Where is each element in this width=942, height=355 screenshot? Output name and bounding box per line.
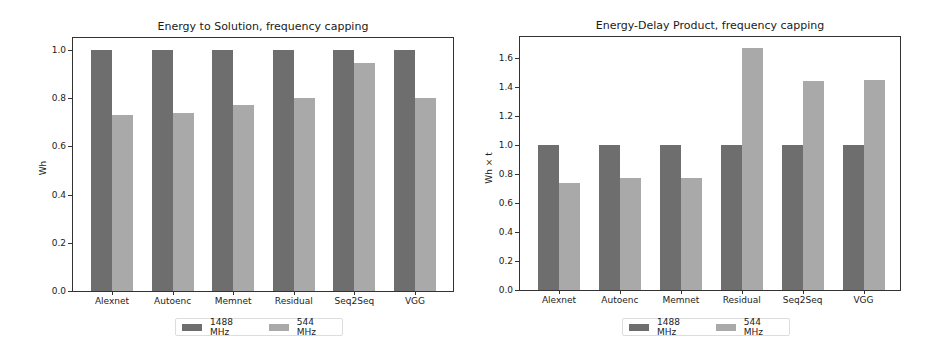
y-tick-mark — [515, 116, 519, 117]
y-tick-label: 1.2 — [483, 111, 513, 121]
x-tick-mark — [559, 290, 560, 294]
y-tick-mark — [515, 174, 519, 175]
legend: 1488 MHz 544 MHz — [622, 318, 790, 336]
energy-delay-product-chart: Energy-Delay Product, frequency capping … — [0, 0, 942, 355]
x-tick-label: Seq2Seq — [783, 295, 823, 305]
y-tick-mark — [515, 232, 519, 233]
legend-label: 544 MHz — [744, 317, 783, 337]
legend-swatch-544 — [716, 324, 736, 331]
bar-residual-544mhz — [742, 48, 763, 290]
x-tick-mark — [681, 290, 682, 294]
y-tick-mark — [515, 290, 519, 291]
legend-label: 1488 MHz — [657, 317, 702, 337]
y-tick-mark — [515, 87, 519, 88]
bar-memnet-1488mhz — [660, 145, 681, 290]
legend-item-544: 544 MHz — [716, 317, 783, 337]
x-tick-label: Memnet — [662, 295, 699, 305]
y-tick-label: 1.0 — [483, 140, 513, 150]
x-tick-label: Alexnet — [542, 295, 576, 305]
bar-seq2seq-1488mhz — [782, 145, 803, 290]
bar-alexnet-544mhz — [559, 183, 580, 290]
y-tick-mark — [515, 203, 519, 204]
bar-autoenc-544mhz — [620, 178, 641, 290]
x-tick-mark — [620, 290, 621, 294]
x-tick-label: VGG — [853, 295, 873, 305]
bar-alexnet-1488mhz — [538, 145, 559, 290]
y-tick-mark — [515, 58, 519, 59]
x-tick-label: Autoenc — [601, 295, 638, 305]
chart-title: Energy-Delay Product, frequency capping — [596, 19, 825, 32]
legend-item-1488: 1488 MHz — [629, 317, 702, 337]
bar-vgg-544mhz — [864, 80, 885, 290]
y-tick-label: 0.8 — [483, 169, 513, 179]
y-tick-label: 0.0 — [483, 285, 513, 295]
y-tick-mark — [515, 145, 519, 146]
bar-autoenc-1488mhz — [599, 145, 620, 290]
x-tick-label: Residual — [723, 295, 761, 305]
bar-seq2seq-544mhz — [803, 81, 824, 290]
bar-memnet-544mhz — [681, 178, 702, 290]
bar-vgg-1488mhz — [843, 145, 864, 290]
x-tick-mark — [864, 290, 865, 294]
y-tick-mark — [515, 261, 519, 262]
y-tick-label: 0.2 — [483, 256, 513, 266]
x-tick-mark — [742, 290, 743, 294]
y-tick-label: 1.6 — [483, 53, 513, 63]
y-tick-label: 0.4 — [483, 227, 513, 237]
y-tick-label: 0.6 — [483, 198, 513, 208]
x-tick-mark — [803, 290, 804, 294]
legend-swatch-1488 — [629, 324, 649, 331]
y-tick-label: 1.4 — [483, 82, 513, 92]
bar-residual-1488mhz — [721, 145, 742, 290]
